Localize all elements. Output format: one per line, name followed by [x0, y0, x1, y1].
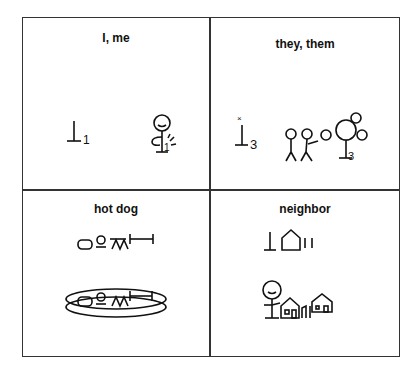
- cell-label: they, them: [210, 37, 400, 51]
- third-person-symbol-icon: × 3: [232, 113, 262, 163]
- cell-neighbor: neighbor: [210, 190, 400, 357]
- svg-text:1: 1: [164, 142, 170, 153]
- cell-label: neighbor: [210, 202, 400, 216]
- cell-they-them: they, them × 3 3: [210, 17, 400, 189]
- indicator-number: 1: [83, 133, 90, 147]
- group-of-people-icon: 3: [280, 112, 390, 172]
- neighbor-symbol-icon: [262, 230, 332, 260]
- self-pointing-figure-icon: 1: [142, 107, 192, 167]
- indicator-number: 3: [250, 137, 257, 152]
- cell-label: I, me: [22, 31, 210, 45]
- svg-text:3: 3: [348, 150, 354, 162]
- hot-dog-symbol-icon: [78, 230, 158, 260]
- person-symbol-icon: 1: [64, 119, 94, 159]
- cell-hot-dog: hot dog: [22, 190, 210, 357]
- hot-dog-picture-icon: [64, 285, 174, 325]
- svg-text:×: ×: [237, 114, 242, 123]
- cell-i-me: I, me 1 1: [22, 17, 210, 189]
- neighbor-picture-icon: [260, 280, 360, 330]
- cell-label: hot dog: [22, 202, 210, 216]
